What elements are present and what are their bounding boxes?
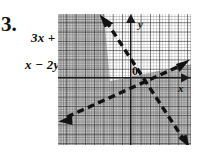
arrowhead-lower-right bbox=[178, 135, 190, 146]
y-axis-arrow-icon bbox=[126, 14, 136, 23]
graph-overlay bbox=[58, 14, 191, 145]
problem-number: 3. bbox=[1, 14, 17, 35]
arrowhead-lower-left bbox=[59, 115, 73, 125]
origin-label: 0 bbox=[132, 64, 138, 79]
y-axis-label: y bbox=[138, 18, 143, 30]
coordinate-plane: y x 0 bbox=[58, 14, 191, 145]
x-axis-label: x bbox=[178, 82, 184, 94]
arrowhead-upper-right bbox=[176, 60, 190, 73]
arrowhead-upper-left bbox=[100, 15, 114, 28]
problem-figure: 3. 3x + 2y < 6 or x − 2y > 2 y x 0 bbox=[0, 0, 199, 153]
